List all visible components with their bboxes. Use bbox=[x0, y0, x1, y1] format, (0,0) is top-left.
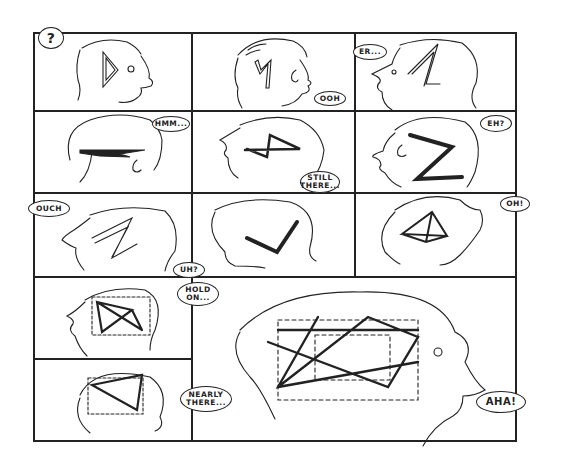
speech-bubble-panel-5: STILL THERE... bbox=[300, 171, 340, 193]
speech-bubble-panel-3: ER... bbox=[353, 44, 387, 60]
speech-bubble-panel-4: HMM... bbox=[152, 116, 190, 132]
speech-bubble-panel-12: AHA! bbox=[476, 391, 526, 413]
panel-2-figure bbox=[235, 39, 311, 108]
bubble-text: UH? bbox=[180, 266, 198, 274]
bubble-text: EH? bbox=[487, 120, 504, 128]
bubble-text: OH! bbox=[506, 200, 524, 208]
bubble-text: OOH bbox=[320, 95, 341, 103]
panel-7-figure bbox=[62, 208, 176, 271]
panel-10-figure bbox=[67, 289, 158, 356]
panel-8-figure bbox=[212, 200, 316, 268]
bubble-text: AHA! bbox=[486, 398, 516, 406]
bubble-text: STILL THERE... bbox=[300, 174, 340, 190]
panel-5-figure bbox=[220, 117, 324, 180]
speech-bubble-panel-8: UH? bbox=[173, 262, 205, 278]
bubble-text: HOLD ON... bbox=[185, 286, 211, 302]
speech-bubble-panel-11: NEARLY THERE... bbox=[180, 386, 232, 412]
panel-3-figure bbox=[372, 39, 477, 110]
speech-bubble-panel-1: ? bbox=[38, 27, 64, 49]
panel-6-figure bbox=[373, 118, 479, 188]
speech-bubble-panel-6: EH? bbox=[480, 115, 512, 132]
bubble-text: HMM... bbox=[155, 120, 188, 128]
speech-bubble-panel-10: HOLD ON... bbox=[177, 282, 219, 306]
comic-page: ? OOH ER... HMM... STILL THERE... EH? OU… bbox=[0, 0, 562, 468]
speech-bubble-panel-7: OUCH bbox=[28, 200, 70, 217]
speech-bubble-panel-9: OH! bbox=[500, 196, 530, 212]
bubble-text: ? bbox=[47, 34, 56, 42]
panel-1-figure bbox=[77, 40, 153, 103]
bubble-text: ER... bbox=[359, 48, 381, 56]
panel-4-figure bbox=[68, 115, 162, 182]
panel-12-figure bbox=[236, 292, 485, 446]
panel-11-figure bbox=[78, 374, 164, 433]
panel-9-figure bbox=[382, 197, 483, 265]
bubble-text: OUCH bbox=[36, 205, 62, 213]
speech-bubble-panel-2: OOH bbox=[314, 91, 346, 106]
bubble-text: NEARLY THERE... bbox=[186, 391, 226, 407]
